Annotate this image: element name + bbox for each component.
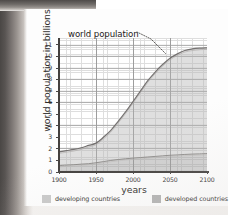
legend-label-developed: developed countries bbox=[165, 195, 228, 203]
x-tick-label: 1900 bbox=[46, 176, 72, 183]
legend-item-developing: developing countries bbox=[42, 195, 120, 203]
world-population-annotation: world population bbox=[68, 29, 139, 39]
x-tick-mark bbox=[207, 171, 208, 174]
y-tick-mark bbox=[56, 125, 59, 126]
y-axis-title: world population in billions bbox=[41, 4, 52, 138]
y-tick-mark bbox=[56, 44, 59, 45]
y-tick-mark bbox=[56, 148, 59, 149]
y-tick-mark bbox=[56, 137, 59, 138]
population-chart: 01234567891011 19001950200020502100 worl… bbox=[24, 9, 228, 206]
x-tick-mark bbox=[96, 171, 97, 174]
scan-top-white-strip bbox=[96, 0, 228, 9]
y-axis-line bbox=[58, 38, 60, 172]
figure-card: 01234567891011 19001950200020502100 worl… bbox=[24, 9, 228, 206]
x-tick-label: 2050 bbox=[157, 176, 183, 183]
y-tick-mark bbox=[56, 160, 59, 161]
y-tick-mark bbox=[56, 91, 59, 92]
figure-card-inner-shadow bbox=[24, 9, 27, 206]
y-tick-label: 2 bbox=[24, 146, 58, 152]
y-tick-mark bbox=[56, 114, 59, 115]
plot-area bbox=[59, 38, 207, 172]
legend-item-developed: developed countries bbox=[152, 195, 228, 203]
x-axis-title: years bbox=[59, 184, 209, 195]
y-tick-mark bbox=[56, 79, 59, 80]
chart-legend: developing countries developed countries bbox=[42, 195, 228, 203]
x-axis-line bbox=[59, 171, 209, 173]
x-tick-mark bbox=[59, 171, 60, 174]
series-areas bbox=[59, 38, 207, 172]
x-tick-mark bbox=[170, 171, 171, 174]
x-tick-label: 2100 bbox=[194, 176, 220, 183]
y-tick-mark bbox=[56, 68, 59, 69]
y-tick-label: 0 bbox=[24, 169, 58, 175]
y-tick-mark bbox=[56, 56, 59, 57]
legend-label-developing: developing countries bbox=[55, 195, 120, 203]
x-tick-label: 1950 bbox=[83, 176, 109, 183]
x-tick-mark bbox=[133, 171, 134, 174]
legend-swatch-developed bbox=[152, 195, 161, 203]
x-tick-label: 2000 bbox=[120, 176, 146, 183]
y-tick-mark bbox=[56, 102, 59, 103]
y-tick-label: 1 bbox=[24, 157, 58, 163]
legend-swatch-developing bbox=[42, 195, 51, 203]
